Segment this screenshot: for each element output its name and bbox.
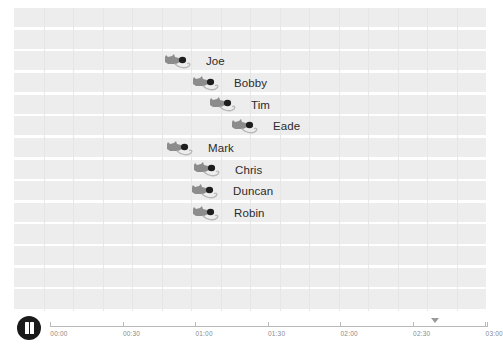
timeline-tick — [485, 322, 486, 327]
timeline-scrubber[interactable]: 00:0000:3001:0001:3002:0002:3003:00 — [50, 311, 494, 353]
timeline-tick-label: 00:30 — [123, 330, 140, 337]
timeline-tick-label: 02:30 — [413, 330, 430, 337]
vertical-gridline — [103, 8, 104, 311]
mouse-racer-icon — [192, 160, 226, 180]
vertical-gridline — [398, 8, 399, 311]
mouse-racer-icon — [163, 52, 197, 72]
pause-icon — [25, 322, 29, 334]
racer-name-label: Robin — [234, 208, 265, 220]
timeline-tick — [123, 322, 124, 327]
racer-name-label: Chris — [235, 165, 262, 177]
pause-icon-bar-2 — [30, 322, 34, 334]
racer-row[interactable]: Duncan — [190, 180, 273, 204]
racer-name-label: Tim — [251, 100, 270, 112]
timeline-tick — [50, 322, 51, 327]
playhead-marker[interactable] — [431, 318, 439, 323]
playback-controls: 00:0000:3001:0001:3002:0002:3003:00 — [0, 311, 500, 353]
timeline-end-tick — [487, 322, 488, 327]
vertical-gridline — [368, 8, 369, 311]
racer-name-label: Bobby — [234, 78, 267, 90]
vertical-gridline — [44, 8, 45, 311]
racer-row[interactable]: Eade — [230, 115, 300, 139]
mouse-racer-icon — [208, 95, 242, 115]
timeline-tick-label: 03:00 — [486, 330, 503, 337]
race-track: JoeBobbyTimEadeMarkChrisDuncanRobin — [14, 8, 486, 311]
racer-row[interactable]: Robin — [191, 202, 265, 226]
vertical-gridline — [339, 8, 340, 311]
timeline-tick-label: 02:00 — [341, 330, 358, 337]
racer-name-label: Mark — [208, 143, 234, 155]
timeline-tick — [340, 322, 341, 327]
timeline-tick — [268, 322, 269, 327]
timeline-tick-label: 00:00 — [50, 330, 67, 337]
pause-button[interactable] — [17, 316, 41, 340]
racer-row[interactable]: Bobby — [191, 72, 267, 96]
racer-row[interactable]: Chris — [192, 158, 262, 182]
racer-name-label: Eade — [273, 121, 300, 133]
vertical-gridline — [457, 8, 458, 311]
timeline-tick-label: 01:30 — [268, 330, 285, 337]
vertical-gridline — [73, 8, 74, 311]
timeline-tick — [413, 322, 414, 327]
mouse-racer-icon — [191, 204, 225, 224]
racer-row[interactable]: Tim — [208, 93, 270, 117]
vertical-gridline — [309, 8, 310, 311]
mouse-racer-icon — [165, 139, 199, 159]
racer-name-label: Duncan — [233, 186, 273, 198]
vertical-gridline — [280, 8, 281, 311]
vertical-gridline — [132, 8, 133, 311]
mouse-racer-icon — [230, 117, 264, 137]
timeline-tick-label: 01:00 — [195, 330, 212, 337]
mouse-racer-icon — [191, 74, 225, 94]
mouse-racer-icon — [190, 182, 224, 202]
racer-row[interactable]: Mark — [165, 137, 234, 161]
vertical-gridline — [427, 8, 428, 311]
racer-row[interactable]: Joe — [163, 50, 225, 74]
racer-name-label: Joe — [206, 56, 225, 68]
timeline-tick — [195, 322, 196, 327]
